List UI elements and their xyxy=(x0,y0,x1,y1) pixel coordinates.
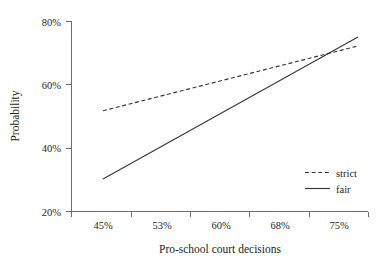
y-tick-label: 80% xyxy=(42,17,62,28)
x-tick-label: 68% xyxy=(270,220,290,231)
line-chart-canvas: 80% 60% 40% 20% 45% 53% 60% 68% 75% xyxy=(0,0,392,263)
legend-label-strict: strict xyxy=(336,168,357,179)
chart-figure: 80% 60% 40% 20% 45% 53% 60% 68% 75% xyxy=(0,0,392,263)
y-tick-label: 20% xyxy=(42,207,62,218)
x-axis-title: Pro-school court decisions xyxy=(159,243,282,255)
y-axis-tick-labels: 80% 60% 40% 20% xyxy=(42,17,62,218)
series-line-fair xyxy=(103,37,358,179)
y-tick-label: 40% xyxy=(42,143,62,154)
series-line-strict xyxy=(103,46,358,111)
x-axis-tick-labels: 45% 53% 60% 68% 75% xyxy=(93,220,349,231)
x-tick-label: 45% xyxy=(93,220,113,231)
x-tick-label: 53% xyxy=(152,220,172,231)
legend-label-fair: fair xyxy=(336,184,351,195)
y-tick-label: 60% xyxy=(42,80,62,91)
chart-legend: strict fair xyxy=(305,168,357,195)
x-tick-label: 75% xyxy=(329,220,349,231)
x-tick-label: 60% xyxy=(211,220,231,231)
y-axis-title: Probability xyxy=(9,90,22,141)
y-axis-ticks xyxy=(66,22,72,212)
x-axis-ticks xyxy=(72,212,369,218)
